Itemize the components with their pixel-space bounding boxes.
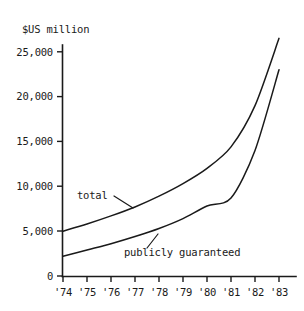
x-tick-label-79: '79 bbox=[174, 286, 192, 298]
x-tick-label-83: '83 bbox=[270, 286, 288, 298]
line-chart: $US million 25,000 20,000 15,000 10,000 … bbox=[0, 0, 304, 311]
y-axis-unit-title: $US million bbox=[22, 23, 89, 35]
y-tick-label-10000: 10,000 bbox=[16, 180, 53, 192]
x-tick-label-75: '75 bbox=[78, 286, 96, 298]
x-tick-label-81: '81 bbox=[222, 286, 240, 298]
x-tick-label-76: '76 bbox=[102, 286, 120, 298]
y-tick-label-0: 0 bbox=[47, 270, 53, 282]
series-annotation-total: total bbox=[77, 189, 108, 201]
x-tick-label-80: '80 bbox=[198, 286, 216, 298]
series-line-total bbox=[63, 38, 279, 231]
x-tick-label-74: '74 bbox=[54, 286, 72, 298]
y-tick-label-5000: 5,000 bbox=[22, 225, 53, 237]
series-annotation-publicly-guaranteed: publicly guaranteed bbox=[124, 246, 240, 258]
x-tick-label-78: '78 bbox=[150, 286, 168, 298]
leader-line-total bbox=[114, 196, 133, 208]
x-axis-labels: '74 '75 '76 '77 '78 '79 '80 '81 '82 '83 bbox=[54, 286, 288, 298]
x-tick-label-82: '82 bbox=[246, 286, 264, 298]
x-tick-label-77: '77 bbox=[126, 286, 144, 298]
chart-container: $US million 25,000 20,000 15,000 10,000 … bbox=[0, 0, 304, 311]
y-axis-labels: 25,000 20,000 15,000 10,000 5,000 0 bbox=[16, 46, 53, 282]
y-tick-label-20000: 20,000 bbox=[16, 90, 53, 102]
y-tick-label-25000: 25,000 bbox=[16, 46, 53, 58]
y-tick-label-15000: 15,000 bbox=[16, 135, 53, 147]
series-line-publicly-guaranteed bbox=[63, 70, 279, 257]
